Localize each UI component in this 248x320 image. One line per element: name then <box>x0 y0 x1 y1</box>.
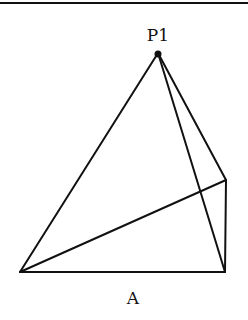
apex-point <box>155 51 162 58</box>
edge-right-vertical <box>225 180 226 272</box>
edge-apex-bottom-left <box>20 53 158 272</box>
edge-apex-bottom-right <box>158 53 225 272</box>
apex-label: P1 <box>147 25 169 45</box>
edge-bottom-left-right <box>20 180 226 272</box>
base-label: A <box>126 288 140 308</box>
pyramid-diagram: P1 A <box>0 0 248 320</box>
